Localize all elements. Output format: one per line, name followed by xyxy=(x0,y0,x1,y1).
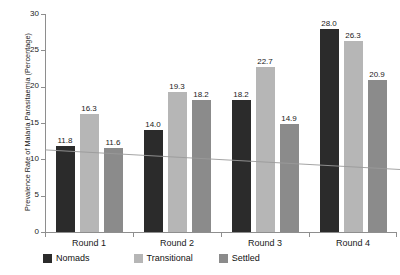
bar: 28.0 xyxy=(320,29,339,232)
y-tick-label: 25 xyxy=(30,45,39,54)
x-group-label: Round 4 xyxy=(336,238,370,248)
x-tick-mark xyxy=(45,233,46,237)
y-tick-mark xyxy=(41,196,45,197)
legend-swatch-nomads xyxy=(43,254,52,263)
y-tick-label: 30 xyxy=(30,9,39,18)
y-tick-mark xyxy=(41,87,45,88)
bar-value-label: 14.0 xyxy=(145,120,161,129)
bar-value-label: 28.0 xyxy=(321,19,337,28)
bar-value-label: 14.9 xyxy=(281,114,297,123)
y-tick-mark xyxy=(41,14,45,15)
x-group-label: Round 3 xyxy=(248,238,282,248)
legend-item-nomads: Nomads xyxy=(43,253,90,263)
bar: 11.8 xyxy=(56,146,75,232)
legend-label-settled: Settled xyxy=(232,253,260,263)
y-tick-label: 20 xyxy=(30,81,39,90)
legend-item-settled: Settled xyxy=(219,253,260,263)
y-tick-mark xyxy=(41,50,45,51)
bar: 14.9 xyxy=(280,124,299,232)
bar-value-label: 16.3 xyxy=(81,104,97,113)
x-tick-mark xyxy=(309,233,310,237)
y-tick-label: 15 xyxy=(30,118,39,127)
bar: 16.3 xyxy=(80,114,99,232)
x-tick-mark xyxy=(221,233,222,237)
bar: 18.2 xyxy=(232,100,251,232)
y-tick-label: 0 xyxy=(35,227,39,236)
bar-chart: Prevalence Rate of Malaria Parasitaemia … xyxy=(0,0,400,275)
legend-label-nomads: Nomads xyxy=(56,253,90,263)
legend: Nomads Transitional Settled xyxy=(43,253,260,263)
y-tick-mark xyxy=(41,159,45,160)
bar: 11.6 xyxy=(104,148,123,232)
bar: 20.9 xyxy=(368,80,387,232)
bar-value-label: 20.9 xyxy=(369,70,385,79)
y-tick-label: 10 xyxy=(30,154,39,163)
plot-area: 051015202530 11.816.311.614.019.318.218.… xyxy=(45,14,397,232)
legend-swatch-transitional xyxy=(134,254,143,263)
bar: 14.0 xyxy=(144,130,163,232)
legend-item-transitional: Transitional xyxy=(134,253,193,263)
y-tick-label: 5 xyxy=(35,190,39,199)
x-group-label: Round 2 xyxy=(160,238,194,248)
bar-value-label: 11.6 xyxy=(106,138,121,147)
bar-value-label: 18.2 xyxy=(233,90,249,99)
bar-value-label: 18.2 xyxy=(193,90,209,99)
x-group-label: Round 1 xyxy=(72,238,106,248)
x-tick-mark xyxy=(133,233,134,237)
y-axis-line xyxy=(45,14,46,232)
legend-label-transitional: Transitional xyxy=(147,253,193,263)
bar: 22.7 xyxy=(256,67,275,232)
x-tick-mark xyxy=(396,233,397,237)
bar-value-label: 22.7 xyxy=(257,57,273,66)
bar: 19.3 xyxy=(168,92,187,232)
bar: 18.2 xyxy=(192,100,211,232)
bar-value-label: 26.3 xyxy=(345,31,361,40)
legend-swatch-settled xyxy=(219,254,228,263)
bar: 26.3 xyxy=(344,41,363,232)
bar-value-label: 11.8 xyxy=(58,136,73,145)
bar-value-label: 19.3 xyxy=(169,82,185,91)
y-tick-mark xyxy=(41,123,45,124)
